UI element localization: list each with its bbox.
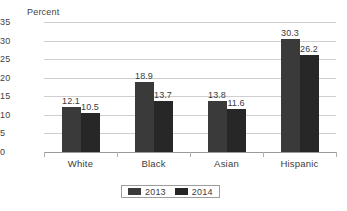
category-label-white: White xyxy=(44,158,117,169)
bar-white-2013 xyxy=(62,107,81,152)
bar-white-2014 xyxy=(81,113,100,152)
legend-label-2014: 2014 xyxy=(192,187,213,197)
x-axis-tick xyxy=(336,152,337,157)
chart-legend: 2013 2014 xyxy=(121,185,220,198)
x-axis-tick xyxy=(117,152,118,157)
y-axis-tick-label: 20 xyxy=(0,73,38,83)
bar-value-label: 26.2 xyxy=(296,44,322,54)
y-axis-tick-label: 30 xyxy=(0,36,38,46)
legend-item-2014: 2014 xyxy=(175,187,213,197)
y-axis-tick-label: 35 xyxy=(0,17,38,27)
y-axis-tick-label: 10 xyxy=(0,110,38,120)
bar-chart: Percent 05101520253035 WhiteBlackAsianHi… xyxy=(0,0,347,211)
bar-value-label: 30.3 xyxy=(277,28,303,38)
bar-value-label: 10.5 xyxy=(77,102,103,112)
bar-black-2014 xyxy=(154,101,173,152)
bar-asian-2014 xyxy=(227,109,246,152)
bar-hispanic-2013 xyxy=(281,39,300,152)
x-axis-tick xyxy=(190,152,191,157)
category-label-black: Black xyxy=(117,158,190,169)
legend-item-2013: 2013 xyxy=(128,187,166,197)
category-label-asian: Asian xyxy=(190,158,263,169)
bar-value-label: 18.9 xyxy=(131,71,157,81)
x-axis-tick xyxy=(263,152,264,157)
gridline xyxy=(44,22,336,23)
bar-value-label: 11.6 xyxy=(223,98,249,108)
legend-label-2013: 2013 xyxy=(145,187,166,197)
y-axis-tick-labels: 05101520253035 xyxy=(0,22,40,152)
bar-value-label: 13.7 xyxy=(150,90,176,100)
x-axis-tick xyxy=(44,152,45,157)
y-axis-tick-label: 15 xyxy=(0,91,38,101)
legend-swatch-2013 xyxy=(128,188,141,195)
legend-swatch-2014 xyxy=(175,188,188,195)
y-axis-tick-label: 5 xyxy=(0,128,38,138)
bar-hispanic-2014 xyxy=(300,55,319,152)
y-axis-tick-label: 0 xyxy=(0,147,38,157)
y-axis-title: Percent xyxy=(27,7,59,17)
y-axis-tick-label: 25 xyxy=(0,54,38,64)
bar-asian-2013 xyxy=(208,101,227,152)
category-label-hispanic: Hispanic xyxy=(263,158,336,169)
